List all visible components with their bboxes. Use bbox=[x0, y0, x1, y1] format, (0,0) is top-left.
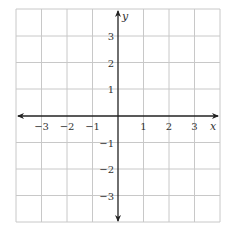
x-tick-labels: −3 −2 −1 1 2 3 bbox=[34, 121, 198, 132]
y-tick: 1 bbox=[108, 84, 114, 95]
x-tick: −1 bbox=[85, 121, 100, 132]
axes bbox=[18, 11, 218, 221]
x-tick: 3 bbox=[191, 121, 197, 132]
x-tick: 2 bbox=[166, 121, 172, 132]
y-tick: −2 bbox=[99, 164, 114, 175]
x-tick: −2 bbox=[60, 121, 75, 132]
y-tick: 2 bbox=[108, 58, 114, 69]
y-tick: −1 bbox=[99, 138, 114, 149]
x-tick: −3 bbox=[34, 121, 49, 132]
y-tick: 3 bbox=[108, 31, 114, 42]
x-axis-label: x bbox=[210, 120, 217, 133]
x-tick: 1 bbox=[140, 121, 146, 132]
y-axis-label: y bbox=[121, 10, 129, 23]
y-tick: −3 bbox=[99, 191, 114, 202]
coordinate-plane: −3 −2 −1 1 2 3 3 2 1 −1 −2 −3 x y bbox=[0, 0, 228, 232]
